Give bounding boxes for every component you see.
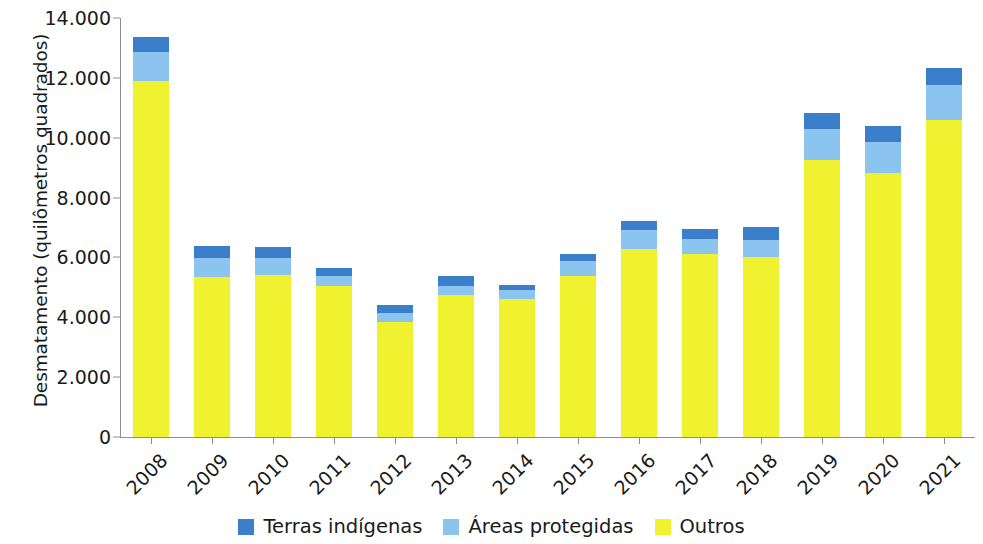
y-tick-mark — [113, 377, 120, 378]
y-tick-mark — [113, 137, 120, 138]
bar-group[interactable] — [425, 18, 486, 437]
bar-group[interactable] — [364, 18, 425, 437]
bar-segment[interactable] — [621, 249, 657, 437]
bar-stack[interactable] — [438, 276, 474, 437]
bar-segment[interactable] — [438, 276, 474, 286]
bar-segment[interactable] — [865, 142, 901, 173]
bar-segment[interactable] — [743, 257, 779, 437]
bar-stack[interactable] — [682, 229, 718, 437]
plot-area: 14.00012.00010.0008.0006.0004.0002.0000 … — [120, 18, 975, 437]
bar-segment[interactable] — [804, 160, 840, 437]
bar-segment[interactable] — [560, 276, 596, 437]
y-tick-label: 6.000 — [57, 246, 111, 268]
bar-group[interactable] — [548, 18, 609, 437]
bar-segment[interactable] — [316, 268, 352, 276]
bar-group[interactable] — [914, 18, 975, 437]
legend-swatch-icon — [443, 519, 459, 535]
bar-segment[interactable] — [255, 258, 291, 275]
bar-segment[interactable] — [865, 173, 901, 437]
x-axis-line — [120, 437, 975, 438]
bar-segment[interactable] — [743, 240, 779, 256]
bar-segment[interactable] — [621, 230, 657, 249]
bar-segment[interactable] — [499, 299, 535, 437]
bar-segment[interactable] — [621, 221, 657, 231]
y-tick-label: 14.000 — [45, 7, 111, 29]
bar-group[interactable] — [120, 18, 181, 437]
y-tick-mark — [113, 197, 120, 198]
bar-segment[interactable] — [560, 261, 596, 276]
bar-segment[interactable] — [804, 129, 840, 160]
bar-group[interactable] — [792, 18, 853, 437]
y-tick-label: 4.000 — [57, 306, 111, 328]
bar-group[interactable] — [609, 18, 670, 437]
bar-stack[interactable] — [560, 254, 596, 437]
bar-segment[interactable] — [804, 113, 840, 129]
bar-segment[interactable] — [316, 276, 352, 286]
bar-segment[interactable] — [194, 277, 230, 437]
bar-stack[interactable] — [621, 221, 657, 437]
bar-group[interactable] — [731, 18, 792, 437]
bar-segment[interactable] — [133, 81, 169, 437]
bar-segment[interactable] — [194, 246, 230, 258]
bar-segment[interactable] — [499, 290, 535, 299]
bar-group[interactable] — [303, 18, 364, 437]
x-tick-label: 2008 — [113, 449, 171, 507]
x-tick-label: 2015 — [541, 449, 599, 507]
bar-stack[interactable] — [743, 227, 779, 437]
bar-stack[interactable] — [865, 126, 901, 437]
bar-group[interactable] — [242, 18, 303, 437]
y-tick-mark — [113, 317, 120, 318]
x-tick-mark — [639, 437, 640, 444]
bar-segment[interactable] — [865, 126, 901, 142]
bar-segment[interactable] — [682, 254, 718, 437]
x-tick-mark — [517, 437, 518, 444]
bar-stack[interactable] — [194, 246, 230, 437]
bar-stack[interactable] — [255, 247, 291, 437]
bar-stack[interactable] — [316, 268, 352, 437]
bar-segment[interactable] — [926, 120, 962, 437]
x-tick-label: 2010 — [235, 449, 293, 507]
bar-segment[interactable] — [438, 295, 474, 437]
bar-group[interactable] — [486, 18, 547, 437]
bar-stack[interactable] — [804, 113, 840, 437]
bar-segment[interactable] — [377, 322, 413, 437]
x-tick-label: 2020 — [846, 449, 904, 507]
bar-segment[interactable] — [926, 68, 962, 85]
bar-segment[interactable] — [926, 85, 962, 120]
bar-segment[interactable] — [194, 258, 230, 277]
x-tick-label: 2011 — [296, 449, 354, 507]
bar-segment[interactable] — [377, 305, 413, 313]
bar-segment[interactable] — [682, 239, 718, 253]
bar-segment[interactable] — [377, 313, 413, 322]
bar-group[interactable] — [670, 18, 731, 437]
legend-swatch-icon — [238, 519, 254, 535]
x-tick-mark — [212, 437, 213, 444]
bar-segment[interactable] — [682, 229, 718, 239]
legend-item[interactable]: Outros — [655, 515, 745, 538]
legend-label: Outros — [680, 515, 745, 538]
bar-stack[interactable] — [133, 37, 169, 437]
x-tick-label: 2012 — [357, 449, 415, 507]
x-tick-label: 2019 — [785, 449, 843, 507]
y-tick-mark — [113, 437, 120, 438]
bar-group[interactable] — [853, 18, 914, 437]
y-tick-label: 10.000 — [45, 127, 111, 149]
bar-group[interactable] — [181, 18, 242, 437]
legend-item[interactable]: Terras indígenas — [238, 515, 422, 538]
bar-segment[interactable] — [255, 247, 291, 258]
bar-segment[interactable] — [133, 52, 169, 81]
legend-item[interactable]: Áreas protegidas — [443, 515, 633, 538]
bar-stack[interactable] — [926, 68, 962, 437]
bar-stack[interactable] — [499, 285, 535, 437]
y-tick-label: 12.000 — [45, 67, 111, 89]
bar-segment[interactable] — [133, 37, 169, 52]
bar-segment[interactable] — [438, 286, 474, 295]
bar-segment[interactable] — [255, 275, 291, 437]
bar-segment[interactable] — [743, 227, 779, 240]
x-tick-label: 2009 — [174, 449, 232, 507]
x-tick-mark — [456, 437, 457, 444]
bar-segment[interactable] — [316, 286, 352, 437]
y-tick-label: 2.000 — [57, 366, 111, 388]
x-tick-label: 2017 — [663, 449, 721, 507]
bar-stack[interactable] — [377, 305, 413, 437]
